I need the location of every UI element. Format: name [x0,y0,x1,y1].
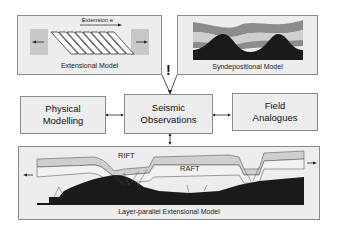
left-extension-arrowhead [23,174,27,177]
tilted-blocks [51,32,134,54]
extension-arrowhead [118,24,122,27]
arrowhead-down [169,142,172,145]
layer-parallel-model-panel: RIFT RAFT Layer-parallel Extensional Mod… [18,146,320,220]
dark-basement [37,175,304,205]
extensional-model-title: Extensional Model [18,62,161,69]
field-analogues-label: Field Analogues [245,100,305,124]
physical-modelling-node: Physical Modelling [20,96,106,134]
extension-label: Extension e [26,17,169,23]
syndepositional-model-title: Syndepositional Model [178,63,317,70]
seismic-observations-node: Seismic Observations [124,94,213,134]
arrowhead-right-2 [228,114,231,117]
seismic-observations-label: Seismic Observations [132,102,206,126]
syndepositional-model-panel: Syndepositional Model [177,15,318,75]
right-extension-arrowhead [313,162,317,165]
raft-label: RAFT [180,164,200,173]
exclamation-mark: ! [166,62,171,78]
arrow-from-syndepositional [170,75,177,93]
layer-parallel-model-title: Layer-parallel Extensional Model [19,208,319,215]
field-analogues-node: Field Analogues [232,93,318,131]
extensional-model-panel: Extension e Extensional Model [17,15,162,75]
physical-modelling-label: Physical Modelling [28,103,98,127]
rift-label: RIFT [118,151,135,160]
